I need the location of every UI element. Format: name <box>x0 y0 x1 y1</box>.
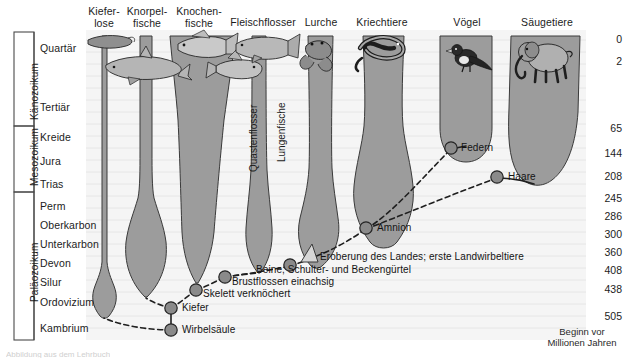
axis-caption-line1: Beginn vor <box>540 326 624 337</box>
column-header-kriechtiere: Kriechtiere <box>350 17 414 29</box>
node-skelett <box>190 284 202 296</box>
axis-caption-line2: Millionen Jahren <box>540 337 624 348</box>
column-header-knochenfische: Knochen- fische <box>168 6 230 29</box>
node-label-eroberung-des-landes: Eroberung des Landes; erste Landwirbelti… <box>320 251 524 262</box>
period-label-tertiaer: Tertiär <box>40 101 70 113</box>
period-label-unterkarbon: Unterkarbon <box>40 238 99 250</box>
mya-value-245: 245 <box>592 192 622 204</box>
mya-value-65: 65 <box>592 122 622 134</box>
mya-value-505: 505 <box>592 310 622 322</box>
node-amnion <box>360 222 372 234</box>
column-header-lurche-line1: Lurche <box>296 17 346 29</box>
column-header-saeugetiere: Säugetiere <box>514 17 580 29</box>
node-label-amnion: Amnion <box>377 222 412 233</box>
node-label-kiefer: Kiefer <box>182 302 209 313</box>
column-header-kriechtiere-line1: Kriechtiere <box>350 17 414 29</box>
period-label-perm: Perm <box>40 200 66 212</box>
era-label-mesozoikum: Mesozoikum <box>29 128 40 186</box>
axis-caption: Beginn vor Millionen Jahren <box>540 326 624 348</box>
era-label-palaeozoikum: Paläozoikum <box>29 243 40 302</box>
node-label-beine-schulter-beckenguertel: Beine, Schulter- und Beckengürtel <box>256 264 411 275</box>
node-brustflossen <box>219 271 231 283</box>
period-label-devon: Devon <box>40 257 71 269</box>
mya-value-438: 438 <box>592 283 622 295</box>
node-label-federn: Federn <box>461 142 493 153</box>
column-header-voegel-line1: Vögel <box>444 17 490 29</box>
period-label-oberkarbon: Oberkarbon <box>40 219 96 231</box>
mya-value-360: 360 <box>592 246 622 258</box>
column-header-lurche: Lurche <box>296 17 346 29</box>
column-header-saeugetiere-line1: Säugetiere <box>514 17 580 29</box>
node-haare <box>491 171 503 183</box>
column-header-fleischflosser: Fleischflosser <box>225 17 301 29</box>
node-label-wirbelsaeule: Wirbelsäule <box>182 324 235 335</box>
bottom-clipped-text: Abbildung aus dem Lehrbuch <box>6 350 110 358</box>
period-label-trias: Trias <box>40 178 63 190</box>
mya-value-408: 408 <box>592 264 622 276</box>
node-wirbelsaeule <box>165 324 177 336</box>
column-header-voegel: Vögel <box>444 17 490 29</box>
period-label-kreide: Kreide <box>40 131 71 143</box>
mya-value-208: 208 <box>592 170 622 182</box>
mya-value-286: 286 <box>592 210 622 222</box>
inner-label-quastenflosser: Quastenflosser <box>248 105 259 172</box>
column-header-knochenfische-line1: Knochen- <box>168 6 230 18</box>
mya-value-2: 2 <box>592 55 622 67</box>
period-label-jura: Jura <box>40 155 61 167</box>
period-label-kambrium: Kambrium <box>40 322 89 334</box>
mya-value-300: 300 <box>592 228 622 240</box>
column-header-fleischflosser-line1: Fleischflosser <box>225 17 301 29</box>
node-label-skelett-verknoechert: Skelett verknöchert <box>203 288 291 299</box>
period-label-quartaer: Quartär <box>40 42 76 54</box>
column-header-knochenfische-line2: fische <box>168 18 230 30</box>
inner-label-lungenfische: Lungenfische <box>276 103 287 163</box>
period-label-ordovizium: Ordovizium <box>40 296 94 308</box>
node-kiefer <box>165 302 177 314</box>
era-label-kaenozoikum: Känozoikum <box>29 63 40 120</box>
mya-value-144: 144 <box>592 147 622 159</box>
period-label-silur: Silur <box>40 276 62 288</box>
node-federn <box>445 142 457 154</box>
node-label-haare: Haare <box>508 171 536 182</box>
mya-value-0: 0 <box>592 33 622 45</box>
node-label-brustflossen-einachsig: Brustflossen einachsig <box>232 276 334 287</box>
